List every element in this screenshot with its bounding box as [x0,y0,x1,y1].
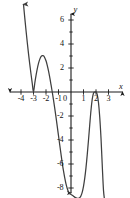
origin-label: 0 [63,95,67,103]
x-tick-label-neg2: -2 [43,95,49,103]
graph-figure: -4 -3 -2 -1 1 2 3 0 6 4 2 -2 -4 -6 -8 x … [0,0,130,198]
y-axis-label: y [74,5,78,14]
x-tick-label-2: 2 [94,95,98,103]
y-tick-label-neg6: -6 [57,160,63,168]
x-tick-label-1: 1 [82,95,86,103]
x-tick-label-3: 3 [107,95,111,103]
y-tick-label-neg8: -8 [57,184,63,192]
y-tick-label-neg4: -4 [57,136,63,144]
y-axis [68,14,73,193]
y-tick-label-2: 2 [60,64,64,72]
y-tick-label-6: 6 [60,16,64,24]
x-tick-label-neg1: -1 [55,95,61,103]
x-axis-label: x [119,82,123,91]
x-tick-label-neg3: -3 [30,95,36,103]
y-tick-label-neg2: -2 [57,112,63,120]
x-tick-label-neg4: -4 [18,95,24,103]
y-tick-label-4: 4 [60,40,64,48]
